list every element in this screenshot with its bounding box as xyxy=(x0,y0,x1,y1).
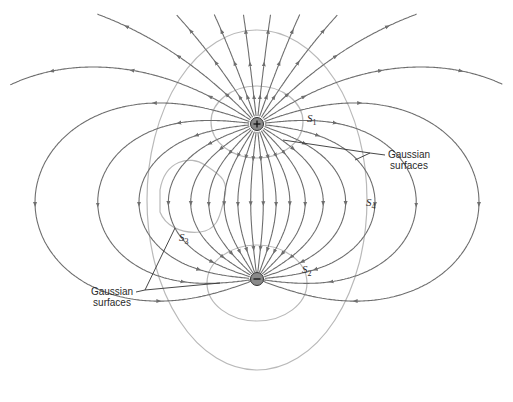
leader-s2 xyxy=(145,283,220,290)
field-line xyxy=(35,103,251,301)
leader-s3 xyxy=(136,228,175,292)
field-line xyxy=(259,132,276,273)
callout-left-line2: surfaces xyxy=(88,297,136,308)
positive-charge xyxy=(251,118,264,131)
callout-right-line1: Gaussian xyxy=(385,149,433,160)
field-line xyxy=(177,15,253,117)
field-line xyxy=(263,14,417,118)
field-line xyxy=(265,125,375,278)
field-line xyxy=(139,125,249,278)
surface-s4 xyxy=(147,30,367,370)
diagram-canvas xyxy=(0,0,513,402)
gaussian-surfaces-group xyxy=(147,30,367,370)
field-line xyxy=(238,132,255,273)
label-s3: S3 xyxy=(179,231,189,246)
callout-right-label: Gaussian surfaces xyxy=(385,149,433,171)
field-line xyxy=(264,67,503,120)
field-line xyxy=(258,132,264,273)
surface-s3 xyxy=(160,160,226,232)
negative-charge xyxy=(251,273,264,286)
callout-left-label: Gaussian surfaces xyxy=(88,286,136,308)
charges-group xyxy=(251,118,264,286)
callout-right-line2: surfaces xyxy=(385,160,433,171)
callout-left-line1: Gaussian xyxy=(88,286,136,297)
label-s1: S1 xyxy=(307,112,317,127)
field-line xyxy=(97,14,251,118)
label-s2: S2 xyxy=(302,263,312,278)
dipole-diagram: S1 S2 S3 S4 Gaussian surfaces Gaussian s… xyxy=(0,0,513,402)
field-line xyxy=(251,132,257,273)
field-line xyxy=(261,15,337,117)
field-line xyxy=(209,130,252,274)
field-line xyxy=(10,67,250,120)
field-line xyxy=(262,130,305,274)
label-s4: S4 xyxy=(366,196,376,211)
